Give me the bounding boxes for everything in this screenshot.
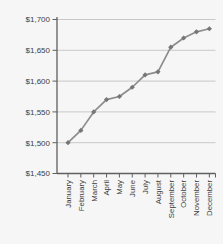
x-tick-label: September	[167, 180, 176, 219]
y-tick-label: $1,550	[26, 108, 51, 117]
y-tick-label: $1,700	[26, 15, 51, 24]
x-tick-label: April	[102, 180, 111, 196]
chart-figure: $1,450$1,500$1,550$1,600$1,650$1,700Janu…	[0, 0, 223, 244]
y-tick-label: $1,600	[26, 77, 51, 86]
x-tick-label: May	[115, 180, 124, 195]
x-tick-label: July	[141, 180, 150, 194]
y-tick-label: $1,650	[26, 46, 51, 55]
data-series-line	[68, 29, 209, 143]
x-tick-label: March	[90, 180, 99, 202]
y-tick-label: $1,500	[26, 139, 51, 148]
data-point-marker-november	[194, 29, 199, 34]
x-tick-label: January	[64, 180, 73, 208]
x-tick-label: February	[77, 180, 86, 211]
line-chart: $1,450$1,500$1,550$1,600$1,650$1,700Janu…	[0, 0, 223, 244]
y-tick-label: $1,450	[26, 169, 51, 178]
x-tick-label: December	[205, 180, 214, 216]
x-tick-label: August	[154, 179, 163, 204]
x-tick-label: November	[192, 180, 201, 216]
data-point-marker-december	[207, 26, 212, 31]
x-tick-label: June	[128, 180, 137, 197]
x-tick-label: October	[179, 180, 188, 208]
